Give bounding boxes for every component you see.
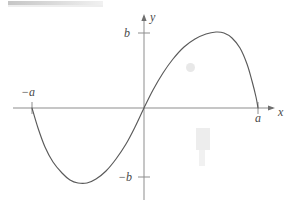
x-axis-arrowhead — [268, 105, 275, 110]
tick-label-a: a — [255, 112, 261, 124]
graph-figure: y x b −b −a a — [0, 0, 293, 209]
plot-canvas — [0, 0, 293, 209]
tick-label-negative-a: −a — [21, 86, 35, 98]
y-axis-label: y — [150, 11, 155, 23]
y-axis-arrowhead — [141, 14, 146, 21]
x-axis-label: x — [278, 106, 283, 118]
tick-label-b: b — [124, 27, 130, 39]
tick-label-negative-b: −b — [118, 171, 132, 183]
